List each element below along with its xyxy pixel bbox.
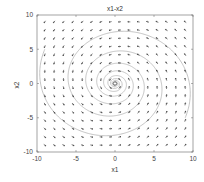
- x-tick-label: 10: [189, 155, 197, 162]
- x-tick-label: 5: [152, 155, 156, 162]
- y-tick-label: 5: [29, 46, 33, 53]
- y-tick-label: 0: [29, 80, 33, 87]
- phase-portrait-chart: x1-x2 -10-50510 -10-50510 x1 x2: [0, 0, 204, 182]
- y-tick-label: 10: [26, 11, 34, 18]
- plot-frame: [37, 15, 193, 152]
- x-axis-title: x1: [112, 166, 119, 173]
- y-axis-title: x2: [13, 81, 20, 88]
- x-tick-label: -10: [32, 155, 42, 162]
- x-tick-label: 0: [113, 155, 117, 162]
- y-tick-label: -10: [24, 148, 34, 155]
- chart-title: x1-x2: [107, 5, 123, 12]
- x-tick-label: -5: [73, 155, 79, 162]
- y-tick-label: -5: [27, 114, 33, 121]
